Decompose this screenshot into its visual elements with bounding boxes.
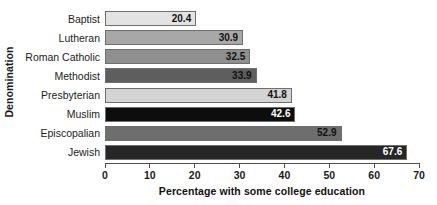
bar-value-label: 33.9 xyxy=(232,71,255,81)
bar-series: 20.430.932.533.941.842.652.967.6 xyxy=(105,9,418,162)
x-axis-tick-label: 60 xyxy=(368,169,380,181)
y-axis-title: Denomination xyxy=(0,0,18,163)
x-axis-tick xyxy=(284,163,285,168)
bar-row: 41.8 xyxy=(105,86,418,105)
x-axis-title: Percentage with some college education xyxy=(105,185,419,197)
bar: 30.9 xyxy=(105,30,243,45)
x-axis-tick-label: 40 xyxy=(279,169,291,181)
x-axis-tick xyxy=(329,163,330,168)
bar-row: 30.9 xyxy=(105,28,418,47)
bar-chart: Denomination BaptistLutheranRoman Cathol… xyxy=(0,0,437,205)
category-label: Presbyterian xyxy=(18,86,104,105)
x-axis-tick-label: 10 xyxy=(144,169,156,181)
bar-row: 42.6 xyxy=(105,105,418,124)
bar-row: 32.5 xyxy=(105,47,418,66)
x-axis-tick xyxy=(374,163,375,168)
y-axis-title-label: Denomination xyxy=(3,46,15,117)
x-axis-tick xyxy=(194,163,195,168)
bar-value-label: 20.4 xyxy=(172,14,195,24)
y-axis-category-labels: BaptistLutheranRoman CatholicMethodistPr… xyxy=(18,9,104,162)
bar: 32.5 xyxy=(105,49,250,64)
x-axis-tick-label: 20 xyxy=(189,169,201,181)
x-axis-tick xyxy=(239,163,240,168)
category-label: Muslim xyxy=(18,105,104,124)
x-axis-tick xyxy=(105,163,106,168)
category-label: Episcopalian xyxy=(18,124,104,143)
bar: 41.8 xyxy=(105,88,292,103)
bar-value-label: 32.5 xyxy=(226,52,249,62)
bar-row: 67.6 xyxy=(105,143,418,162)
bar-row: 33.9 xyxy=(105,66,418,85)
x-axis-tick xyxy=(149,163,150,168)
bar: 33.9 xyxy=(105,68,257,83)
bar-value-label: 42.6 xyxy=(271,109,294,119)
x-axis-tick-label: 70 xyxy=(413,169,425,181)
bar-value-label: 30.9 xyxy=(219,33,242,43)
bar-row: 52.9 xyxy=(105,124,418,143)
category-label: Baptist xyxy=(18,9,104,28)
bar-value-label: 52.9 xyxy=(317,128,340,138)
bar: 20.4 xyxy=(105,11,196,26)
x-axis-tick-labels: 010203040506070 xyxy=(105,169,419,183)
bar: 52.9 xyxy=(105,126,342,141)
bar-value-label: 67.6 xyxy=(383,147,406,157)
category-label: Roman Catholic xyxy=(18,47,104,66)
category-label: Lutheran xyxy=(18,28,104,47)
bar-value-label: 41.8 xyxy=(267,90,290,100)
plot-area: 20.430.932.533.941.842.652.967.6 xyxy=(105,9,418,162)
bar: 67.6 xyxy=(105,145,407,160)
x-axis-tick-label: 30 xyxy=(234,169,246,181)
bar: 42.6 xyxy=(105,107,295,122)
x-axis-tick xyxy=(419,163,420,168)
x-axis-tick-label: 0 xyxy=(102,169,108,181)
bar-row: 20.4 xyxy=(105,9,418,28)
category-label: Jewish xyxy=(18,143,104,162)
x-axis-tick-label: 50 xyxy=(323,169,335,181)
category-label: Methodist xyxy=(18,66,104,85)
